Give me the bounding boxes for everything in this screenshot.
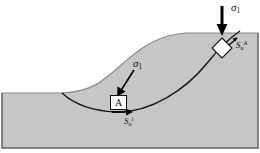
su-a-label: SuA <box>236 40 247 51</box>
su-superscript: i <box>132 116 134 122</box>
soil-element-a-box: A <box>110 95 127 110</box>
sigma-top-arrow <box>217 6 228 36</box>
sigma-subscript: 1 <box>138 62 142 71</box>
sigma-subscript: 1 <box>236 6 240 15</box>
su-superscript: A <box>244 40 248 46</box>
sigma-1-mid-label: σ1 <box>133 58 142 71</box>
point-a-label: A <box>115 97 122 108</box>
su-i-label: Sui <box>124 116 133 127</box>
diagram-canvas <box>0 0 260 153</box>
slope-stability-figure: σ1 σ1 SuA Sui A <box>0 0 260 153</box>
sigma-1-top-label: σ1 <box>231 2 240 15</box>
